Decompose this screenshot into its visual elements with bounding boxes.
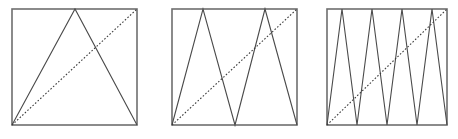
chart-panel-3	[0, 0, 458, 139]
figure-root	[0, 0, 458, 139]
panel-3-identity-diagonal	[327, 9, 447, 125]
panel-3-canvas	[0, 0, 458, 139]
